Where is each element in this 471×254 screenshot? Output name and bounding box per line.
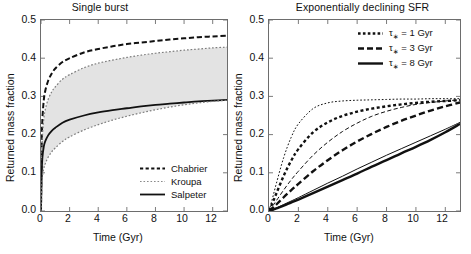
yaxis-label-left: Returned mass fraction — [4, 73, 16, 182]
legend-item-salpeter[interactable]: Salpeter — [140, 188, 207, 201]
legend-label-tau8: τ∗ = 8 Gyr — [389, 57, 433, 71]
panel-title-right: Exponentially declining SFR — [245, 1, 471, 13]
xtick-left-5: 10 — [175, 212, 189, 224]
ytick-left-5: 0.0 — [6, 203, 36, 215]
legend-tau-subscript-8: ∗ — [393, 62, 399, 69]
legend-label-kroupa: Kroupa — [171, 176, 202, 187]
xtick-left-4: 8 — [149, 212, 159, 224]
legend-key-dashed — [358, 43, 383, 54]
legend-key-dotted — [358, 28, 383, 39]
xtick-right-2: 4 — [321, 212, 331, 224]
legend-tau-subscript-1: ∗ — [393, 32, 399, 39]
panel-title-left: Single burst — [0, 1, 218, 13]
ytick-right-5: 0.0 — [234, 203, 264, 215]
xtick-right-5: 10 — [406, 212, 420, 224]
legend-item-chabrier[interactable]: Chabrier — [140, 162, 207, 175]
legend-key-dashed — [140, 163, 165, 174]
legend-tau-subscript-3: ∗ — [393, 47, 399, 54]
legend-item-tau3[interactable]: τ∗ = 3 Gyr — [358, 41, 433, 56]
xtick-right-1: 2 — [292, 212, 302, 224]
legend-tau-value-1: = 1 Gyr — [401, 27, 432, 38]
xtick-left-0: 0 — [35, 212, 45, 224]
ytick-right-0: 0.5 — [234, 13, 264, 25]
legend-item-tau8[interactable]: τ∗ = 8 Gyr — [358, 56, 433, 71]
xtick-left-3: 6 — [120, 212, 130, 224]
xaxis-label-right: Time (Gyr) — [324, 231, 374, 243]
xtick-right-3: 6 — [350, 212, 360, 224]
legend-right: τ∗ = 1 Gyr τ∗ = 3 Gyr τ∗ = 8 Gyr — [358, 26, 433, 71]
xtick-left-2: 4 — [92, 212, 102, 224]
legend-label-tau1: τ∗ = 1 Gyr — [389, 27, 433, 41]
xtick-left-1: 2 — [63, 212, 73, 224]
legend-tau-value-8: = 8 Gyr — [401, 57, 432, 68]
legend-item-kroupa[interactable]: Kroupa — [140, 175, 207, 188]
legend-item-tau1[interactable]: τ∗ = 1 Gyr — [358, 26, 433, 41]
xtick-left-6: 12 — [204, 212, 218, 224]
ytick-left-1: 0.4 — [6, 51, 36, 63]
ytick-right-1: 0.4 — [234, 51, 264, 63]
xtick-right-6: 12 — [435, 212, 449, 224]
legend-tau-value-3: = 3 Gyr — [401, 42, 432, 53]
legend-label-tau3: τ∗ = 3 Gyr — [389, 42, 433, 56]
yaxis-label-right: Returned mass fraction — [232, 73, 244, 182]
legend-label-chabrier: Chabrier — [171, 163, 207, 174]
legend-key-solid — [140, 189, 165, 200]
legend-key-solid — [358, 58, 383, 69]
panel-single-burst: Single burst 0.5 0.4 0.3 0.2 0.1 0.0 0 2… — [0, 0, 236, 254]
xtick-right-0: 0 — [263, 212, 273, 224]
panel-exponentially-declining-sfr: Exponentially declining SFR 0.5 0.4 0.3 … — [236, 0, 471, 254]
ytick-left-0: 0.5 — [6, 13, 36, 25]
xtick-right-4: 8 — [380, 212, 390, 224]
legend-label-salpeter: Salpeter — [171, 189, 206, 200]
legend-left: Chabrier Kroupa Salpeter — [140, 162, 207, 201]
xaxis-label-left: Time (Gyr) — [93, 231, 143, 243]
legend-key-dotted — [140, 176, 165, 187]
